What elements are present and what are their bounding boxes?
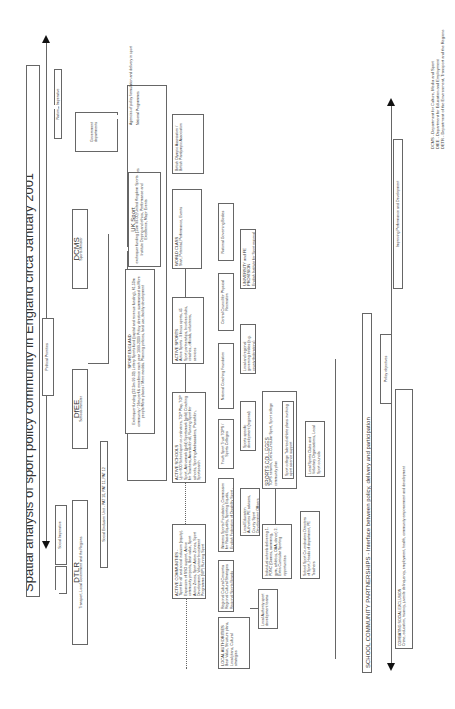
dtlr-box: DTLR Transport, Local Government and the… [72, 500, 88, 645]
row-label-national-programmes: National Programmes [136, 91, 140, 125]
school-sport-coordinators-box: School Sport Co-ordinators Directors of … [300, 511, 320, 579]
sport-specific-box: Sports specific development (regional) [240, 401, 256, 451]
social-imperative-label: Social Imperative [55, 505, 67, 565]
local-clubs-box: Local Sports Clubs and Voluntary Organis… [305, 421, 325, 477]
footnotes: DCMS - Department for Culture, Media and… [430, 30, 445, 149]
connector [108, 234, 109, 364]
social-exclusion-unit-box: Social Exclusion Unit - PAT 10, PAT 11, … [100, 441, 108, 568]
yst-box: Youth Sport Trust TOPS / Sports Colleges [218, 419, 234, 469]
combating-social-exclusion-box: COMBATING SOCIAL EXCLUSION Crime, educat… [395, 389, 413, 649]
connector [185, 269, 186, 297]
local-authorities-box: LOCAL AUTHORITIES Best Value, Structure … [218, 617, 250, 669]
political-priorities-label: Political Priorities [42, 318, 54, 396]
connector [185, 364, 186, 392]
dfee-box: DfEE Schools minister [72, 369, 88, 449]
dotted-connector [185, 483, 186, 524]
diagram-canvas: Spatial analysis of sport policy communi… [0, 0, 455, 709]
connector [335, 359, 336, 659]
row-label-government: Government departments [75, 112, 118, 152]
ncf-box: National Coaching Foundation [218, 343, 234, 409]
policy-objectives-label: Policy objectives [380, 334, 392, 404]
world-class-box: WORLD CLASS Start, Potential, Performanc… [172, 189, 202, 269]
title-box: Spatial analysis of sport policy communi… [26, 65, 40, 597]
boa-box: British Olympic Association / British Pa… [172, 114, 204, 174]
row-label-agencies: Agencies of policy formulation and deliv… [129, 46, 133, 125]
dcms-box: DCMS Sports Minister [72, 209, 88, 289]
arrow-left-icon [387, 663, 395, 671]
imperative-axis-line [46, 37, 47, 542]
arrow-left-icon [42, 541, 50, 549]
individual-schools-box: Individual schools delivering 1. PDNC (G… [262, 524, 292, 579]
la-sport-dev-box: Local Authority sport development teams [258, 589, 278, 629]
uk-sport-box: UK Sport exchequer funding (15m 99-00) U… [128, 172, 161, 267]
regional-cultural-box: Regional Cultural Consortia Regional Cul… [218, 560, 234, 612]
dotted-connector [186, 599, 187, 669]
womens-sports-box: Womens Sports Foundation, Commission for… [218, 478, 234, 552]
sport-college-talented-box: Sport college Talented athlete plans inv… [282, 401, 294, 479]
diagram-title: Spatial analysis of sport policy communi… [26, 173, 36, 592]
sport-england-box: SPORT ENGLAND Exchequer funding (32.3m 9… [125, 269, 155, 434]
university-fe-box: UNIVERSITY and FE PROVISION English Inst… [240, 229, 256, 289]
lea-box: Local Education Authorities PE advisers,… [240, 488, 260, 536]
national-imperative-label: National Imperative [54, 69, 62, 139]
connector [275, 489, 276, 524]
ngb-box: National Governing Bodies [218, 203, 234, 261]
arrow-right-icon [387, 98, 395, 106]
local-regional-bodies-box: Local and regional governing bodies (e.g… [240, 324, 256, 374]
arrow-right-icon [42, 35, 50, 43]
improving-performance-label: Improving Performance and Development [393, 139, 403, 289]
school-community-partnerships-box: SCHOOL COMMUNITY PARTNERSHIPS - Interfac… [362, 313, 372, 673]
active-sports-box: ACTIVE SPORTS Active Sports - 9 focus sp… [172, 297, 204, 364]
ccpr-box: Central Council for Physical Recreation [218, 273, 234, 331]
active-communities-box: ACTIVE COMMUNITIES - 'Sport for all' and… [172, 524, 206, 599]
active-schools-box: ACTIVE SCHOOLS Up to 600 School sport co… [172, 392, 206, 483]
connector [88, 363, 108, 364]
